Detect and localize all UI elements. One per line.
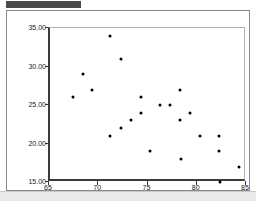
footer-band <box>0 191 256 201</box>
chart-frame: 35.0030.0025.0020.0015.00 6570758085 X V… <box>6 10 250 191</box>
data-point <box>119 127 122 130</box>
data-point <box>218 134 221 137</box>
data-point <box>179 88 182 91</box>
x-axis-tick-label: 70 <box>93 184 101 191</box>
x-axis-tick-label: 75 <box>143 184 151 191</box>
y-axis-tick-label: 30.00 <box>28 62 46 69</box>
data-point <box>129 119 132 122</box>
data-point <box>119 57 122 60</box>
y-axis-tick-labels: 35.0030.0025.0020.0015.00 <box>13 11 46 201</box>
data-point <box>188 111 191 114</box>
data-point <box>149 150 152 153</box>
y-axis-tick-label: 20.00 <box>28 139 46 146</box>
data-point <box>109 34 112 37</box>
x-axis-tick-label: 65 <box>44 184 52 191</box>
data-point <box>238 165 241 168</box>
x-axis-tick-label: 85 <box>241 184 249 191</box>
data-point <box>109 134 112 137</box>
data-point <box>159 104 162 107</box>
data-point <box>198 134 201 137</box>
x-axis-tick-label: 80 <box>192 184 200 191</box>
y-axis-tick-label: 25.00 <box>28 101 46 108</box>
scatter-points-layer <box>50 28 244 179</box>
data-point <box>71 96 74 99</box>
data-point <box>218 150 221 153</box>
screenshot-root: 35.0030.0025.0020.0015.00 6570758085 X V… <box>0 0 256 201</box>
y-axis-tick-label: 35.00 <box>28 24 46 31</box>
data-point <box>169 104 172 107</box>
header-bar <box>6 1 81 8</box>
data-point <box>179 119 182 122</box>
data-point <box>81 73 84 76</box>
data-point <box>139 111 142 114</box>
data-point <box>180 157 183 160</box>
plot-area <box>48 27 245 181</box>
data-point <box>139 96 142 99</box>
data-point <box>91 88 94 91</box>
